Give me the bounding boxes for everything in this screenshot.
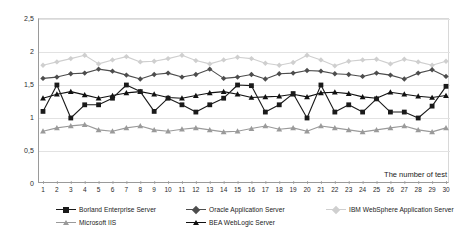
data-point-marker <box>262 123 268 128</box>
line-chart: 2,521,510,50 TRPT, c The number of test … <box>0 0 459 239</box>
legend-item-microsoft-iis[interactable]: Microsoft IIS <box>56 216 116 229</box>
series-ibm-websphere-application-server <box>40 53 448 69</box>
legend-label: IBM WebSphere Application Server <box>349 206 454 214</box>
legend-item-bea-weblogic-server[interactable]: BEA WebLogic Server <box>186 216 275 229</box>
data-point-marker <box>138 59 143 64</box>
data-point-marker <box>263 76 268 81</box>
data-point-marker <box>277 71 282 76</box>
data-point-marker <box>96 102 101 107</box>
data-point-marker <box>235 74 240 79</box>
data-point-marker <box>180 102 185 107</box>
data-point-marker <box>318 57 323 62</box>
data-point-marker <box>110 57 115 62</box>
legend-item-oracle-application-server[interactable]: Oracle Application Server <box>186 203 285 216</box>
data-point-marker <box>332 110 337 115</box>
x-tick-label: 6 <box>111 186 115 194</box>
x-tick-label: 1 <box>41 186 45 194</box>
y-tick-label: 2,5 <box>4 15 34 22</box>
plot-area <box>38 18 449 183</box>
x-tick-label: 17 <box>262 186 269 194</box>
y-axis-tick-labels: 2,521,510,50 <box>0 18 34 183</box>
data-point-marker <box>40 63 45 68</box>
data-point-marker <box>151 72 156 77</box>
x-tick-label: 26 <box>387 186 394 194</box>
data-point-marker <box>360 110 365 115</box>
data-point-marker <box>41 109 46 114</box>
data-point-marker <box>346 72 351 77</box>
y-tick-label: 0,5 <box>4 147 34 154</box>
legend-item-borland-enterprise-server[interactable]: Borland Enterprise Server <box>56 203 156 216</box>
data-point-marker <box>319 83 324 88</box>
data-point-marker <box>304 53 309 58</box>
x-tick-label: 15 <box>234 186 241 194</box>
data-point-marker <box>388 89 394 94</box>
x-tick-label: 25 <box>373 186 380 194</box>
data-point-marker <box>318 123 324 128</box>
data-point-marker <box>82 53 87 58</box>
data-point-marker <box>96 66 101 71</box>
x-tick-label: 16 <box>248 186 255 194</box>
data-point-marker <box>416 59 421 64</box>
legend-label: BEA WebLogic Server <box>209 219 275 227</box>
data-point-marker <box>166 96 171 101</box>
data-point-marker <box>193 72 198 77</box>
data-point-marker <box>305 116 310 121</box>
data-point-marker <box>54 59 59 64</box>
data-point-marker <box>346 102 351 107</box>
x-tick-label: 2 <box>55 186 59 194</box>
data-point-marker <box>249 83 254 88</box>
data-point-marker <box>124 54 129 59</box>
legend-marker-square-icon <box>63 207 69 213</box>
series-bea-weblogic-server <box>40 89 449 101</box>
series-line <box>43 85 446 118</box>
data-point-marker <box>207 61 212 66</box>
x-tick-label: 22 <box>331 186 338 194</box>
data-point-marker <box>40 76 45 81</box>
data-point-marker <box>416 116 421 121</box>
legend-swatch-square-icon <box>56 205 76 214</box>
x-tick-label: 20 <box>303 186 310 194</box>
legend-row: Borland Enterprise ServerOracle Applicat… <box>38 203 453 216</box>
data-point-marker <box>277 63 282 68</box>
data-point-marker <box>138 89 143 94</box>
plot-svg <box>39 19 450 184</box>
x-axis-title: The number of test <box>384 170 447 179</box>
legend-swatch-diamond-icon <box>326 205 346 214</box>
data-point-marker <box>332 63 337 68</box>
legend-label: Borland Enterprise Server <box>79 206 156 214</box>
data-point-marker <box>221 96 226 101</box>
data-point-marker <box>68 71 73 76</box>
data-point-marker <box>179 74 184 79</box>
x-tick-label: 19 <box>290 186 297 194</box>
data-point-marker <box>263 110 268 115</box>
data-point-marker <box>179 53 184 58</box>
data-point-marker <box>443 125 449 130</box>
data-point-marker <box>443 93 449 98</box>
x-tick-label: 9 <box>152 186 156 194</box>
x-tick-label: 4 <box>83 186 87 194</box>
data-point-marker <box>249 72 254 77</box>
data-point-marker <box>291 91 296 96</box>
legend-item-ibm-websphere-application-server[interactable]: IBM WebSphere Application Server <box>326 203 454 216</box>
data-point-marker <box>402 57 407 62</box>
series-line <box>43 92 446 99</box>
data-point-marker <box>68 56 73 61</box>
data-point-marker <box>304 68 309 73</box>
legend-marker-diamond-icon <box>332 205 340 213</box>
legend-swatch-diamond-icon <box>186 205 206 214</box>
data-point-marker <box>263 61 268 66</box>
data-point-marker <box>82 70 87 75</box>
x-tick-label: 18 <box>276 186 283 194</box>
data-point-marker <box>124 83 129 88</box>
x-tick-label: 8 <box>138 186 142 194</box>
data-point-marker <box>388 110 393 115</box>
data-point-marker <box>68 116 73 121</box>
series-line <box>43 55 446 66</box>
legend-marker-triangle-icon <box>193 220 199 225</box>
data-point-marker <box>360 74 365 79</box>
data-point-marker <box>110 68 115 73</box>
data-point-marker <box>138 76 143 81</box>
data-point-marker <box>332 71 337 76</box>
x-tick-label: 13 <box>206 186 213 194</box>
data-point-marker <box>388 61 393 66</box>
